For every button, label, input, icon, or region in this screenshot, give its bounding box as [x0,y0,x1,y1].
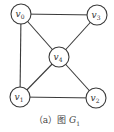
node-v3: v3 [87,5,107,25]
edge-v1-v2 [20,97,96,98]
edge-v0-v1 [20,14,21,97]
caption-graph-subscript: 1 [76,120,80,127]
node-v1: v1 [10,87,30,107]
node-v0: v0 [11,4,31,24]
graph-diagram: v0v1v2v3v4 [0,0,114,112]
caption-prefix: （a）图 [34,115,69,125]
node-v2: v2 [86,88,106,108]
figure-caption: （a）图 G1 [0,112,114,132]
node-v4: v4 [49,47,69,67]
edge-v0-v3 [21,14,97,15]
nodes-group: v0v1v2v3v4 [10,4,107,108]
